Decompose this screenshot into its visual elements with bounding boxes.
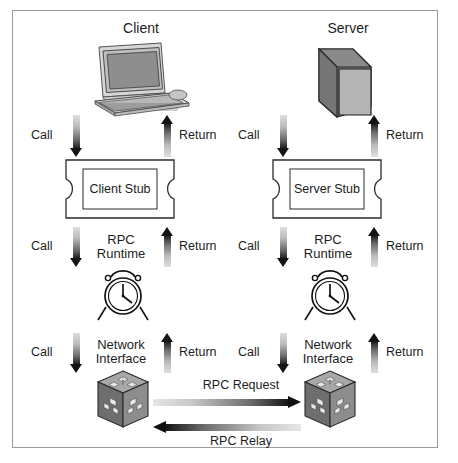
network-cube-icon bbox=[302, 369, 358, 431]
rpc-relay-arrow bbox=[153, 421, 301, 434]
client-runtime-label-line1: RPC bbox=[91, 233, 151, 247]
server-stub-label: Server Stub bbox=[272, 159, 382, 219]
rpc-request-arrow bbox=[153, 396, 301, 409]
client-return-label-2: Return bbox=[179, 240, 217, 254]
client-network-label-line2: Interface bbox=[79, 352, 163, 366]
client-call-arrow-1 bbox=[70, 115, 83, 157]
alarm-clock-icon bbox=[93, 263, 153, 325]
server-call-label-1: Call bbox=[238, 129, 260, 143]
alarm-clock-icon bbox=[300, 263, 360, 325]
rpc-relay-label: RPC Relay bbox=[181, 435, 301, 449]
server-call-arrow-2 bbox=[277, 227, 290, 267]
server-call-label-3: Call bbox=[238, 346, 260, 360]
client-return-arrow-1 bbox=[161, 115, 174, 157]
server-call-arrow-1 bbox=[277, 115, 290, 157]
server-runtime-label-line2: Runtime bbox=[290, 247, 366, 261]
server-return-label-2: Return bbox=[386, 240, 424, 254]
client-stub-shape: Client Stub bbox=[65, 159, 175, 219]
server-network-label-line1: Network bbox=[286, 338, 370, 352]
network-cube-icon bbox=[95, 369, 151, 431]
server-tower-icon bbox=[309, 39, 387, 121]
server-return-label-1: Return bbox=[386, 129, 424, 143]
client-call-arrow-2 bbox=[70, 227, 83, 267]
client-runtime-label-line2: Runtime bbox=[83, 247, 159, 261]
client-return-arrow-2 bbox=[161, 227, 174, 267]
server-return-label-3: Return bbox=[386, 346, 424, 360]
client-stub-label: Client Stub bbox=[65, 159, 175, 219]
client-network-label-line1: Network bbox=[79, 338, 163, 352]
server-return-arrow-1 bbox=[368, 115, 381, 157]
computer-workstation-icon bbox=[85, 41, 193, 119]
client-title: Client bbox=[91, 21, 191, 36]
server-stub-shape: Server Stub bbox=[272, 159, 382, 219]
client-return-label-3: Return bbox=[179, 346, 217, 360]
server-return-arrow-2 bbox=[368, 227, 381, 267]
diagram-frame: Client Call bbox=[12, 10, 438, 448]
client-return-label-1: Return bbox=[179, 129, 217, 143]
client-call-label-2: Call bbox=[31, 240, 53, 254]
server-call-label-2: Call bbox=[238, 240, 260, 254]
client-call-label-3: Call bbox=[31, 346, 53, 360]
server-runtime-label-line1: RPC bbox=[298, 233, 358, 247]
server-title: Server bbox=[298, 21, 398, 36]
server-network-label-line2: Interface bbox=[286, 352, 370, 366]
rpc-request-label: RPC Request bbox=[181, 379, 301, 393]
client-call-label-1: Call bbox=[31, 129, 53, 143]
